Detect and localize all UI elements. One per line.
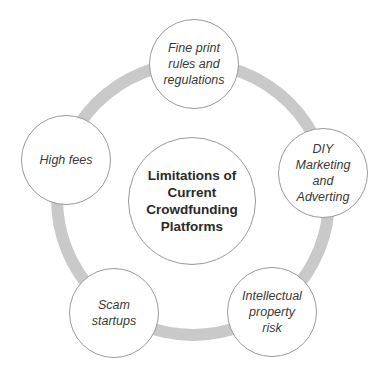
node-label: Intellectual property risk: [242, 288, 302, 336]
center-node: Limitations of Current Crowdfunding Plat…: [128, 137, 256, 265]
node-label: High fees: [40, 152, 93, 168]
node-label: Scam startups: [92, 297, 136, 329]
node-label: Fine print rules and regulations: [163, 40, 224, 88]
node-label: DIY Marketing and Adverting: [296, 141, 351, 205]
node-scam-startups: Scam startups: [69, 268, 159, 358]
node-fine-print: Fine print rules and regulations: [149, 19, 239, 109]
center-label: Limitations of Current Crowdfunding Plat…: [146, 167, 237, 235]
node-high-fees: High fees: [21, 115, 111, 205]
node-diy-marketing: DIY Marketing and Adverting: [278, 128, 368, 218]
node-intellectual-property: Intellectual property risk: [227, 267, 317, 357]
